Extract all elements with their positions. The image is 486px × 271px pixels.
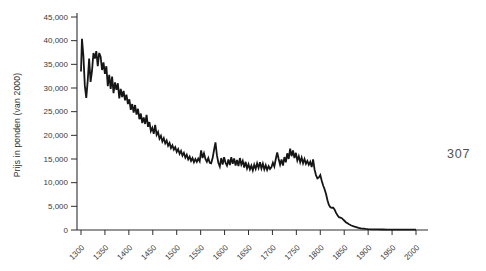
page-number: 307 xyxy=(447,147,470,161)
x-tick-label: 1400 xyxy=(115,243,134,262)
x-tick-label: 1950 xyxy=(379,243,398,262)
x-tick-label: 1300 xyxy=(67,243,86,262)
price-line-chart: 05,00010,00015,00020,00025,00030,00035,0… xyxy=(0,0,486,271)
y-tick-label: 30,000 xyxy=(44,84,69,93)
y-tick-label: 0 xyxy=(64,226,69,235)
x-tick-label: 1750 xyxy=(283,243,302,262)
x-tick-label: 1350 xyxy=(91,243,110,262)
x-tick-label: 1700 xyxy=(259,243,278,262)
book-page-figure: 05,00010,00015,00020,00025,00030,00035,0… xyxy=(0,0,486,271)
y-tick-label: 40,000 xyxy=(44,36,69,45)
x-tick-label: 1800 xyxy=(307,243,326,262)
y-tick-label: 45,000 xyxy=(44,13,69,22)
y-tick-label: 20,000 xyxy=(44,131,69,140)
x-tick-label: 1850 xyxy=(331,243,350,262)
x-tick-label: 2000 xyxy=(402,243,421,262)
y-tick-label: 35,000 xyxy=(44,60,69,69)
y-tick-label: 15,000 xyxy=(44,155,69,164)
price-series-line xyxy=(81,39,416,230)
y-tick-label: 10,000 xyxy=(44,178,69,187)
x-tick-label: 1650 xyxy=(235,243,254,262)
x-tick-label: 1550 xyxy=(187,243,206,262)
x-tick-label: 1600 xyxy=(211,243,230,262)
x-tick-label: 1500 xyxy=(163,243,182,262)
x-tick-label: 1900 xyxy=(355,243,374,262)
x-tick-label: 1450 xyxy=(139,243,158,262)
y-axis-title: Prijs in ponden (van 2000) xyxy=(12,73,22,177)
y-tick-label: 5,000 xyxy=(48,202,69,211)
y-tick-label: 25,000 xyxy=(44,107,69,116)
